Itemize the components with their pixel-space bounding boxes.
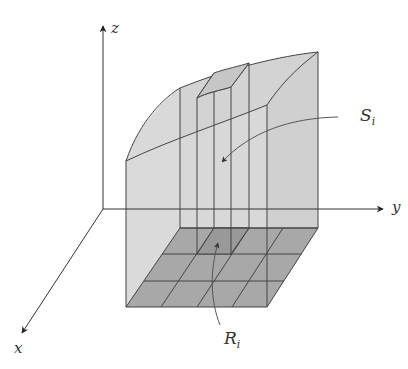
surface-patch-label: Si (360, 107, 375, 127)
y-axis-label: y (392, 200, 400, 215)
diagram-canvas: z y x Si Ri (0, 0, 408, 369)
region-patch-label: Ri (224, 330, 240, 350)
x-axis-label: x (14, 341, 22, 356)
solid-diagram (0, 0, 408, 369)
x-axis (22, 209, 103, 333)
z-axis-label: z (111, 21, 119, 36)
